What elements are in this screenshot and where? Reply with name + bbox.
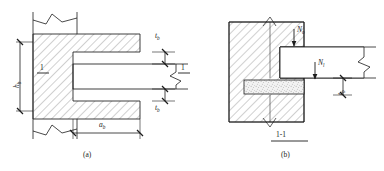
panel-a-drawing <box>16 12 190 139</box>
figure-vector-canvas <box>0 0 384 171</box>
panel-b-caption: (b) <box>281 150 290 159</box>
beam-plan-a <box>73 64 188 89</box>
grout-bed-b <box>244 80 304 94</box>
force-label-No: No <box>297 26 305 34</box>
wall-hatched-body-a <box>33 34 140 119</box>
section-mark-right: 1 <box>181 63 185 72</box>
force-label-Nl: Nl <box>318 59 324 67</box>
engineering-figure: hb ab tb tb 1 1 (a) No Nl tb 1-1 (b) <box>0 0 384 171</box>
dimension-label-tb-bearing: tb <box>337 90 345 95</box>
dimension-label-hb: hb <box>13 82 21 88</box>
beam-section-b <box>280 47 376 78</box>
section-mark-left: 1 <box>40 63 44 72</box>
dim-tb-bottom-a <box>152 86 175 104</box>
dim-hb-a <box>16 39 33 114</box>
panel-a-caption: (a) <box>83 150 91 159</box>
panel-b-drawing <box>229 17 376 141</box>
dimension-label-tb-top: tb <box>155 32 160 40</box>
dim-tb-top-a <box>152 49 175 67</box>
section-title-1-1: 1-1 <box>276 130 286 139</box>
dim-ab-a <box>70 119 143 139</box>
dimension-label-ab: ab <box>99 121 105 129</box>
dimension-label-tb-bottom: tb <box>155 104 160 112</box>
